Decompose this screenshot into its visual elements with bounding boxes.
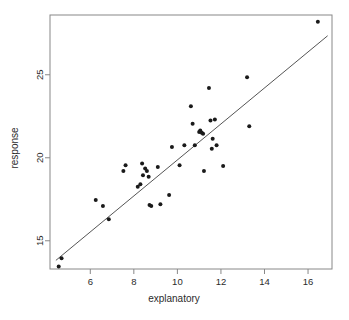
data-point	[213, 118, 217, 122]
data-point	[247, 124, 251, 128]
data-point	[149, 204, 153, 208]
x-axis-title: explanatory	[148, 293, 200, 304]
data-point	[211, 137, 215, 141]
data-point	[141, 173, 145, 177]
data-point	[201, 132, 205, 136]
data-point	[167, 193, 171, 197]
x-tick-label: 8	[131, 276, 136, 287]
x-tick-label: 10	[172, 276, 183, 287]
y-tick-label: 20	[35, 152, 46, 163]
data-point	[245, 75, 249, 79]
data-point	[182, 143, 186, 147]
y-axis-title: response	[9, 127, 20, 169]
x-tick-label: 6	[88, 276, 93, 287]
x-tick-label: 12	[216, 276, 227, 287]
data-point	[57, 265, 61, 269]
data-point	[124, 163, 128, 167]
y-tick-label: 15	[35, 235, 46, 246]
data-point	[140, 162, 144, 166]
data-point	[208, 118, 212, 122]
data-point	[221, 164, 225, 168]
data-point	[147, 175, 151, 179]
data-point	[316, 20, 320, 24]
data-point	[191, 122, 195, 126]
data-point	[202, 169, 206, 173]
data-point	[138, 182, 142, 186]
data-point	[210, 147, 214, 151]
data-point	[193, 143, 197, 147]
data-point	[178, 163, 182, 167]
data-point	[158, 202, 162, 206]
y-tick-label: 25	[35, 69, 46, 80]
data-point	[94, 198, 98, 202]
scatter-plot-figure: 6810121416 152025 explanatory response	[0, 0, 349, 320]
data-point	[156, 165, 160, 169]
data-point	[207, 86, 211, 90]
data-point	[121, 169, 125, 173]
data-point	[189, 104, 193, 108]
data-point	[101, 204, 105, 208]
data-point	[215, 143, 219, 147]
x-tick-label: 16	[303, 276, 314, 287]
data-point	[145, 169, 149, 173]
data-point	[170, 145, 174, 149]
plot-canvas: 6810121416 152025 explanatory response	[0, 0, 349, 320]
data-point	[107, 217, 111, 221]
data-point	[60, 256, 64, 260]
x-tick-label: 14	[259, 276, 270, 287]
figure-background	[0, 0, 349, 320]
